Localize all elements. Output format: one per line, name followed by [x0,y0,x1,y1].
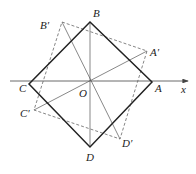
label-d: D [85,151,94,163]
label-a: A [154,82,162,94]
label-x: x [180,83,186,95]
original-square [29,22,152,147]
label-b: B [93,7,100,19]
label-o: O [79,87,87,99]
label-c-prime: C′ [20,107,30,119]
diagonal-b-prime-d-prime [62,22,120,139]
rotation-diagram: B B′ A′ A x C O C′ D′ D [0,0,196,174]
label-a-prime: A′ [149,46,160,58]
label-d-prime: D′ [121,137,133,149]
label-b-prime: B′ [40,19,50,31]
label-c: C [19,82,27,94]
